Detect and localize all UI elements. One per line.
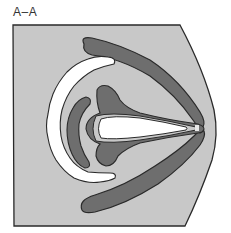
cross-section-diagram [0,0,231,233]
diagram-canvas: A–A [0,0,231,233]
arrow-tip-notch [195,125,199,131]
